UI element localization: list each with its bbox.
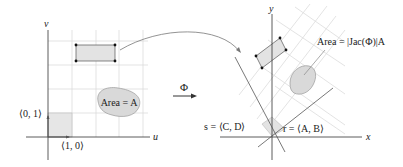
basis-u-label: ⟨1, 0⟩ xyxy=(61,140,84,151)
vector-r-label: r = ⟨A, B⟩ xyxy=(283,123,324,134)
map-label: Φ xyxy=(180,81,188,93)
small-rectangle xyxy=(76,45,115,61)
transformed-region xyxy=(290,66,316,94)
left-plane: Area = A u v ⟨1, 0⟩ ⟨0, 1⟩ xyxy=(19,18,158,160)
region-area-label: Area = A xyxy=(101,97,139,108)
unit-square xyxy=(48,113,72,137)
vector-r-line xyxy=(258,88,333,147)
region-jacobian-label: Area = |Jac(Φ)|A xyxy=(317,36,386,48)
right-plane: Area = |Jac(Φ)|A x y r = ⟨A, B⟩ s = ⟨C, … xyxy=(204,3,386,160)
mapping-curve xyxy=(120,32,240,52)
basis-v-label: ⟨0, 1⟩ xyxy=(19,108,42,119)
vector-s-label: s = ⟨C, D⟩ xyxy=(204,121,245,132)
change-of-variables-diagram: Area = A u v ⟨1, 0⟩ ⟨0, 1⟩ Φ xyxy=(0,0,403,167)
v-axis-label: v xyxy=(44,18,49,29)
y-axis-label: y xyxy=(268,3,274,14)
u-axis-label: u xyxy=(153,131,158,142)
x-axis-label: x xyxy=(365,131,371,142)
transformed-unit-square xyxy=(262,117,285,136)
right-grid xyxy=(239,4,345,134)
arrowhead-icon xyxy=(191,94,197,99)
